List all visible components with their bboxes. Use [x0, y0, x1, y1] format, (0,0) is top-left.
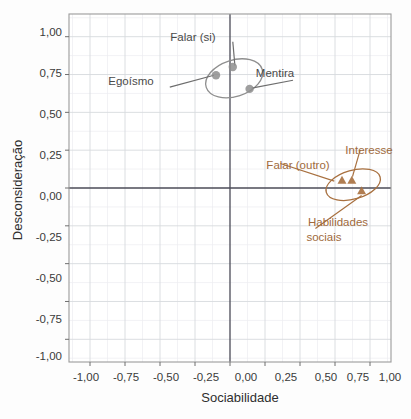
scatter-plot-figure: -1,00 -0,75 -0,50 -0,25 0,00 0,25 0,50 0…	[0, 0, 411, 419]
y-tick-label: -0,25	[36, 231, 62, 243]
chart-canvas: -1,00 -0,75 -0,50 -0,25 0,00 0,25 0,50 0…	[0, 0, 411, 419]
y-tick-label: 0,00	[40, 190, 62, 202]
x-tick-label: 0,75	[347, 371, 369, 383]
annotation-falar-outro: Falar (outro)	[266, 159, 329, 171]
x-tick-label: -0,75	[113, 371, 139, 383]
y-axis-title: Desconsideração	[10, 140, 25, 240]
y-tick-label: 1,00	[40, 26, 62, 38]
x-tick-label: 0,25	[275, 371, 297, 383]
y-tick-labels: 1,00 0,75 0,50 0,25 0,00 -0,25 -0,50 -0,…	[36, 26, 62, 362]
x-tick-label: 0,00	[235, 371, 257, 383]
y-tick-label: -0,50	[36, 272, 62, 284]
annotation-habilidades-1: Habilidades	[308, 216, 368, 228]
annotation-egoismo: Egoísmo	[108, 75, 153, 87]
y-tick-label: -0,75	[36, 313, 62, 325]
x-tick-label: -0,25	[193, 371, 219, 383]
y-tick-label: 0,50	[40, 108, 62, 120]
x-tick-label: -0,50	[153, 371, 179, 383]
annotation-habilidades-2: sociais	[306, 231, 341, 243]
x-tick-label: 1,00	[379, 371, 401, 383]
x-tick-labels: -1,00 -0,75 -0,50 -0,25 0,00 0,25 0,50 0…	[73, 371, 401, 383]
y-tick-label: 0,75	[40, 67, 62, 79]
y-tick-label: -1,00	[36, 350, 62, 362]
annotation-falar-si: Falar (si)	[170, 31, 216, 43]
x-axis-title: Sociabilidade	[201, 390, 278, 405]
annotation-interesse: Interesse	[345, 144, 392, 156]
x-tick-label: -1,00	[73, 371, 99, 383]
annotation-mentira: Mentira	[256, 67, 295, 79]
y-tick-label: 0,25	[40, 149, 62, 161]
x-tick-label: 0,50	[315, 371, 337, 383]
